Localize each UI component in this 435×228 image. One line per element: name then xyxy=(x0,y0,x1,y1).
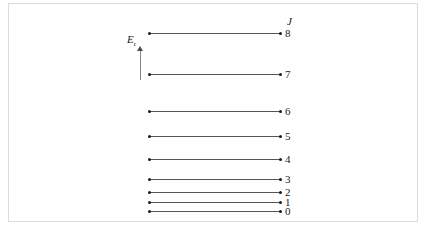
energy-axis-arrow-icon xyxy=(137,46,143,51)
energy-level-dot-left xyxy=(148,210,151,213)
energy-level-dot-right xyxy=(279,73,282,76)
energy-level-dot-right xyxy=(279,191,282,194)
energy-subscript: r xyxy=(134,40,136,48)
energy-level-label: 8 xyxy=(285,28,291,39)
energy-level-line xyxy=(149,74,280,75)
energy-level-dot-right xyxy=(279,135,282,138)
energy-level-label: 3 xyxy=(285,174,291,185)
energy-axis-label: Er xyxy=(127,34,136,48)
energy-level-dot-right xyxy=(279,210,282,213)
energy-level-line xyxy=(149,111,280,112)
energy-level-dot-left xyxy=(148,158,151,161)
energy-level-line xyxy=(149,202,280,203)
energy-level-line xyxy=(149,179,280,180)
energy-level-dot-right xyxy=(279,158,282,161)
energy-level-dot-right xyxy=(279,178,282,181)
energy-level-label: 4 xyxy=(285,154,291,165)
energy-level-line xyxy=(149,192,280,193)
energy-axis-line xyxy=(140,50,141,80)
energy-level-label: 5 xyxy=(285,131,291,142)
energy-level-dot-left xyxy=(148,201,151,204)
energy-level-label: 6 xyxy=(285,106,291,117)
energy-level-label: 2 xyxy=(285,187,291,198)
energy-symbol: E xyxy=(127,33,134,45)
energy-level-dot-right xyxy=(279,110,282,113)
energy-level-label: 1 xyxy=(285,197,291,208)
energy-level-label: 7 xyxy=(285,69,291,80)
energy-level-dot-left xyxy=(148,110,151,113)
energy-level-line xyxy=(149,159,280,160)
energy-level-dot-left xyxy=(148,32,151,35)
energy-level-dot-left xyxy=(148,191,151,194)
energy-level-line xyxy=(149,136,280,137)
figure-frame: J Er 012345678 xyxy=(8,3,418,222)
energy-level-line xyxy=(149,33,280,34)
energy-level-dot-right xyxy=(279,32,282,35)
energy-level-figure: J Er 012345678 xyxy=(0,0,435,228)
energy-level-line xyxy=(149,211,280,212)
energy-level-dot-left xyxy=(148,73,151,76)
energy-level-dot-left xyxy=(148,135,151,138)
energy-level-dot-left xyxy=(148,178,151,181)
quantum-number-header-label: J xyxy=(287,16,292,27)
energy-level-dot-right xyxy=(279,201,282,204)
